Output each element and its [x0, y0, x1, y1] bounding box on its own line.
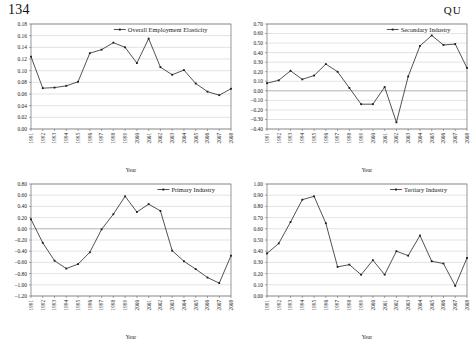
- data-point: [278, 79, 280, 81]
- x-axis-tick-label: 1992: [40, 133, 46, 144]
- y-axis-tick-label: –0.20: [14, 237, 27, 243]
- x-axis-tick-label: 1993: [287, 133, 293, 144]
- data-point: [89, 52, 91, 54]
- x-axis-tick-label: 2001: [146, 300, 152, 311]
- x-axis-tick-label: 2005: [429, 300, 435, 311]
- figure-grid: 0.000.020.040.060.080.100.120.140.160.18…: [0, 16, 472, 343]
- chart-legend: Secondary Industry: [387, 26, 452, 33]
- data-point: [136, 62, 138, 64]
- data-point: [124, 46, 126, 48]
- x-axis-tick-label: 2003: [169, 133, 175, 144]
- data-point: [372, 103, 374, 105]
- y-axis-tick-label: –0.40: [250, 126, 263, 132]
- data-point: [42, 242, 44, 244]
- data-point: [195, 83, 197, 85]
- data-point: [290, 221, 292, 223]
- x-axis-tick-label: 1991: [264, 300, 270, 311]
- x-axis-tick-label: 2001: [382, 300, 388, 311]
- x-axis-tick-label: 1998: [110, 300, 116, 311]
- x-axis-tick-label: 2008: [228, 300, 234, 311]
- data-point: [54, 87, 56, 89]
- chart-tertiary-industry: 0.000.100.200.300.400.500.600.700.800.90…: [236, 176, 472, 341]
- y-axis-tick-label: 0.00: [18, 126, 28, 132]
- x-axis-tick-label: 2002: [393, 300, 399, 311]
- y-axis-tick-label: 0.08: [18, 79, 28, 85]
- x-axis-tick-label: 2000: [134, 133, 140, 144]
- chart-secondary-industry: –0.40–0.30–0.20–0.100.000.100.200.300.40…: [236, 16, 472, 174]
- y-axis-tick-label: 0.12: [18, 56, 28, 62]
- data-point: [266, 82, 268, 84]
- y-axis-tick-label: 1.00: [254, 181, 264, 187]
- x-axis-tick-label: 1995: [75, 300, 81, 311]
- y-axis-tick-label: 0.00: [254, 88, 264, 94]
- page-canvas: 134 QU 0.000.020.040.060.080.100.120.140…: [0, 0, 472, 343]
- legend-label: Overall Employment Elasticity: [128, 26, 208, 33]
- plot-frame: [31, 24, 231, 129]
- y-axis-tick-label: –1.00: [14, 282, 27, 288]
- y-axis-tick-label: 0.80: [254, 203, 264, 209]
- series-line: [267, 35, 467, 122]
- data-point: [396, 250, 398, 252]
- x-axis-tick-label: 2005: [429, 133, 435, 144]
- x-axis-tick-label: 1995: [75, 133, 81, 144]
- y-axis-tick-label: 0.60: [18, 192, 28, 198]
- x-axis-tick-label: 2006: [204, 300, 210, 311]
- y-axis-tick-label: 0.10: [254, 78, 264, 84]
- data-point: [171, 250, 173, 252]
- data-point: [65, 85, 67, 87]
- data-point: [89, 251, 91, 253]
- data-point: [183, 260, 185, 262]
- y-axis-tick-label: 0.30: [254, 59, 264, 65]
- x-axis-tick-label: 1994: [63, 133, 69, 144]
- data-point: [431, 260, 433, 262]
- x-axis-tick-label: 1994: [299, 133, 305, 144]
- x-axis-tick-label: 2000: [134, 300, 140, 311]
- data-point: [337, 71, 339, 73]
- x-axis-tick-label: 2002: [157, 133, 163, 144]
- x-axis-tick-label: 2000: [370, 300, 376, 311]
- x-axis-tick-label: 2008: [464, 133, 470, 144]
- data-point: [266, 253, 268, 255]
- y-axis-tick-label: 0.20: [254, 69, 264, 75]
- legend-marker-square-icon: [162, 189, 164, 191]
- y-axis-tick-label: 0.40: [18, 203, 28, 209]
- data-point: [301, 78, 303, 80]
- legend-label: Secondary Industry: [401, 26, 452, 33]
- data-point: [183, 69, 185, 71]
- data-point: [218, 94, 220, 96]
- y-axis-tick-label: –0.10: [250, 97, 263, 103]
- data-point: [419, 45, 421, 47]
- x-axis-tick-label: 2004: [181, 300, 187, 311]
- x-axis-tick-label: 1992: [276, 133, 282, 144]
- data-point: [348, 87, 350, 89]
- x-axis-tick-label: 2004: [417, 300, 423, 311]
- x-axis-tick-label: 2007: [216, 300, 222, 311]
- data-point: [325, 63, 327, 65]
- figure-tertiary-industry: 0.000.100.200.300.400.500.600.700.800.90…: [236, 176, 472, 343]
- data-point: [218, 282, 220, 284]
- y-axis-tick-label: 0.70: [254, 215, 264, 221]
- data-point: [466, 257, 468, 259]
- x-axis-tick-label: 2003: [405, 133, 411, 144]
- y-axis-tick-label: –0.80: [14, 271, 27, 277]
- x-axis-tick-label: 2007: [452, 133, 458, 144]
- data-point: [396, 121, 398, 123]
- x-axis-tick-label: 1994: [63, 300, 69, 311]
- y-axis-tick-label: 0.04: [18, 103, 28, 109]
- running-head: QU: [444, 4, 462, 16]
- series-line: [31, 39, 231, 96]
- data-point: [407, 255, 409, 257]
- y-axis-tick-label: 0.14: [18, 44, 28, 50]
- x-axis-tick-label: 1993: [51, 300, 57, 311]
- data-point: [290, 70, 292, 72]
- x-axis-tick-label: 1995: [311, 300, 317, 311]
- x-axis-tick-label: 1997: [98, 300, 104, 311]
- data-point: [301, 199, 303, 201]
- x-axis-tick-label: 2003: [405, 300, 411, 311]
- x-axis-tick-label: 2003: [169, 300, 175, 311]
- x-axis-tick-label: 2006: [440, 300, 446, 311]
- x-axis-tick-label: 1998: [110, 133, 116, 144]
- y-axis-tick-label: 0.00: [18, 226, 28, 232]
- series-line: [31, 196, 231, 283]
- x-axis-tick-label: 2005: [193, 133, 199, 144]
